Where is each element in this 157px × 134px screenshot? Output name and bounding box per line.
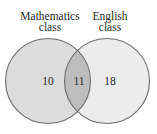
intersection-count: 11	[73, 75, 84, 87]
venn-diagram: Mathematics class English class 10 11 18	[0, 0, 157, 134]
english-only-count: 18	[104, 75, 116, 87]
english-set-label-line2: class	[99, 21, 122, 33]
math-set-label-line2: class	[39, 21, 62, 33]
math-only-count: 10	[42, 75, 54, 87]
